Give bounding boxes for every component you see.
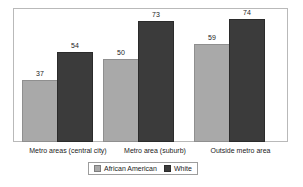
category-label-outside-metro: Outside metro area [193, 146, 288, 156]
bar-wrap-african-american: 59 [194, 9, 230, 142]
bar-african-american[interactable] [194, 44, 230, 142]
bar-chart-figure: 37 54 50 73 59 [0, 0, 303, 187]
legend-label: African American [104, 165, 157, 173]
chart-legend: African American White [88, 162, 198, 175]
bar-wrap-african-american: 37 [22, 9, 58, 142]
bar-wrap-white: 73 [138, 9, 174, 142]
bar-wrap-white: 74 [229, 9, 265, 142]
bar-group-metro-central-city: 37 54 [22, 9, 93, 142]
bar-wrap-white: 54 [57, 9, 93, 142]
bar-value-label: 54 [57, 42, 93, 50]
bar-value-label: 74 [229, 9, 265, 17]
chart-plot-area: 37 54 50 73 59 [15, 9, 287, 142]
legend-item-white[interactable]: White [164, 165, 192, 173]
bar-group-metro-suburb: 50 73 [103, 9, 174, 142]
legend-item-african-american[interactable]: African American [94, 165, 157, 173]
bar-african-american[interactable] [103, 59, 139, 142]
bar-value-label: 50 [103, 49, 139, 57]
bar-value-label: 59 [194, 34, 230, 42]
legend-swatch-icon [94, 165, 101, 172]
category-label-metro-suburb: Metro area (suburb) [105, 146, 205, 156]
legend-swatch-icon [164, 165, 171, 172]
category-axis-labels: Metro areas (central city) Metro area (s… [13, 146, 288, 157]
bar-wrap-african-american: 50 [103, 9, 139, 142]
bar-white[interactable] [229, 19, 265, 142]
bar-value-label: 73 [138, 11, 174, 19]
bar-white[interactable] [57, 52, 93, 142]
legend-label: White [174, 165, 192, 173]
bar-white[interactable] [138, 21, 174, 142]
bar-value-label: 37 [22, 70, 58, 78]
bar-african-american[interactable] [22, 80, 58, 142]
bar-group-outside-metro: 59 74 [194, 9, 265, 142]
